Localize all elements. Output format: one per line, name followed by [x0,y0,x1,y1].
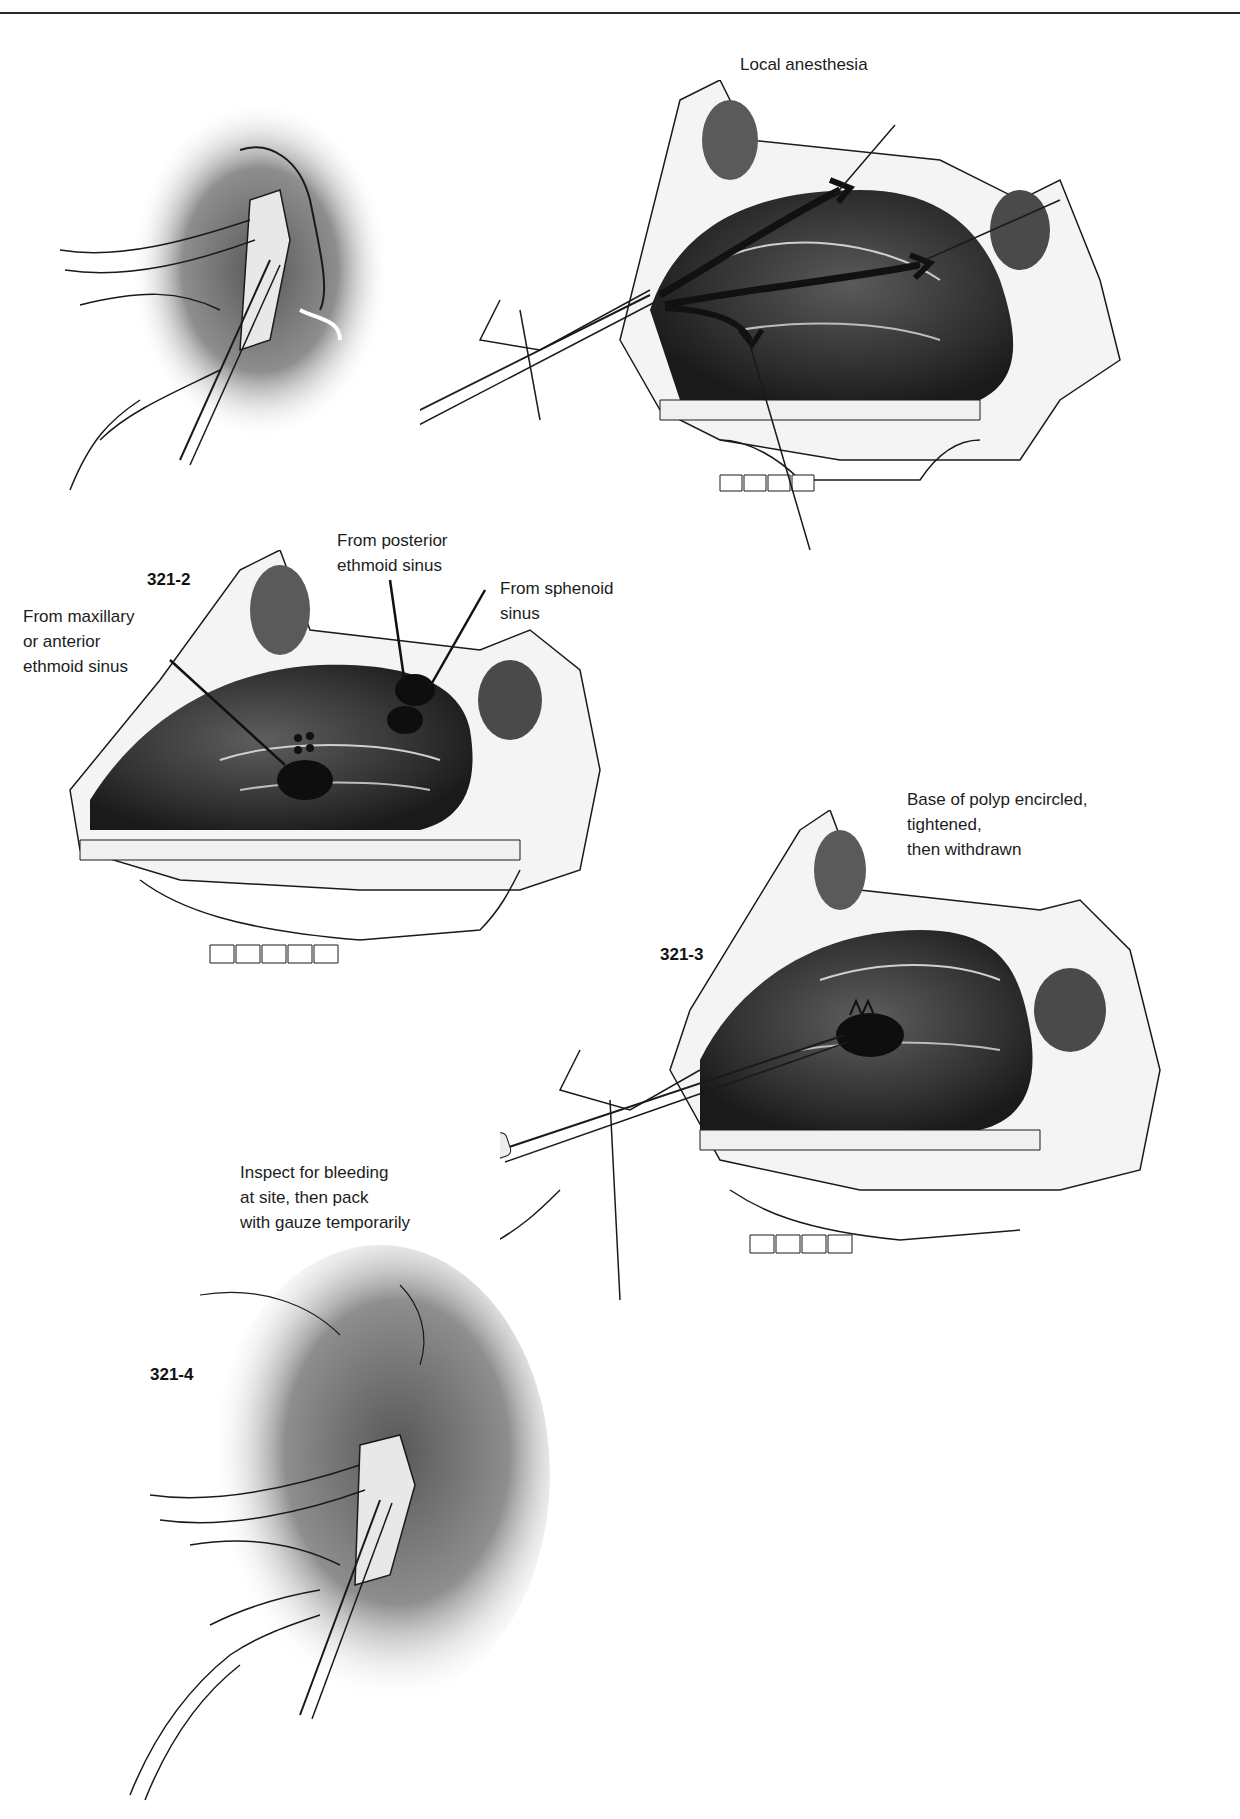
nose-gauze-drawing [120,1245,560,1805]
nasal-section-anesthesia-drawing [420,80,1220,550]
illustration-321-4-gauze-packing [120,1245,560,1805]
illustration-321-3-snare-removal [500,810,1200,1300]
nose-speculum-drawing [40,40,420,510]
illustration-321-1-anesthesia [420,80,1220,550]
caption-inspect-bleeding: Inspect for bleeding at site, then pack … [240,1160,410,1235]
caption-local-anesthesia: Local anesthesia [740,52,868,77]
nasal-section-snare-drawing [500,810,1200,1300]
header-rule [0,12,1240,14]
illustration-external-nose-speculum [40,40,420,510]
